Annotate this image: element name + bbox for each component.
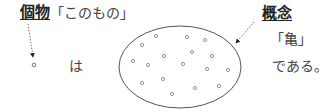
individual-members (131, 34, 229, 95)
member-dot (185, 35, 188, 38)
concept-arrow (236, 22, 254, 43)
copula-text: である。 (272, 59, 326, 73)
member-dot (161, 77, 164, 80)
member-dot (131, 59, 134, 62)
member-dot (181, 62, 184, 65)
member-dot (193, 86, 196, 89)
member-dot (140, 81, 143, 84)
member-dot (205, 67, 208, 70)
member-dot (146, 63, 149, 66)
member-dot (190, 50, 193, 53)
member-dot (170, 92, 173, 95)
member-dot (217, 84, 220, 87)
individual-arrow (28, 24, 33, 57)
member-dot (226, 68, 229, 71)
individual-dot (32, 63, 36, 67)
concept-term: 概念 (262, 6, 292, 21)
concept-extension-ellipse (119, 26, 241, 108)
member-dot (140, 43, 143, 46)
concept-quote: 「亀」 (270, 32, 312, 46)
member-dot (154, 34, 157, 37)
member-dot (210, 54, 213, 57)
member-dot (162, 54, 165, 57)
particle-wa: は (69, 59, 83, 73)
individual-term: 個物 (20, 5, 50, 20)
member-dot (203, 38, 206, 41)
individual-quote: 「このもの」 (50, 6, 134, 20)
